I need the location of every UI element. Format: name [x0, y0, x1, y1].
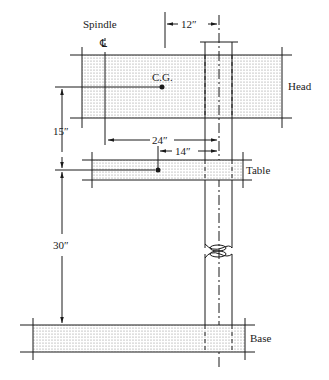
dim-14-label: 14″: [175, 145, 191, 157]
machine-diagram: Spindle ℄ C.G. Head Table Base 12″ 24″ 1…: [0, 0, 329, 380]
head-cg-label: C.G.: [152, 71, 173, 83]
dim-15-label: 15″: [53, 125, 69, 137]
centerline-symbol: ℄: [99, 37, 107, 49]
head-cg-dot: [160, 85, 165, 90]
table-cg-dot: [156, 168, 161, 173]
dim-12-label: 12″: [181, 18, 197, 30]
base-label: Base: [250, 332, 272, 344]
dim-30-label: 30″: [53, 239, 69, 251]
head-label: Head: [288, 80, 312, 92]
table-block: [55, 152, 252, 188]
spindle-label: Spindle: [83, 18, 117, 30]
base-block: [20, 318, 255, 360]
table-label: Table: [246, 164, 270, 176]
dim-24-label: 24″: [152, 134, 168, 146]
